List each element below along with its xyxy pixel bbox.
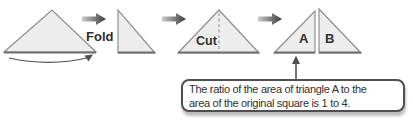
- right-block-arrow-icon: [82, 13, 106, 25]
- up-arrow-icon: [292, 56, 300, 80]
- right-block-arrow-icon: [162, 13, 186, 25]
- folded-triangle: [118, 10, 155, 53]
- right-block-arrow-icon: [258, 13, 282, 25]
- curved-fold-arrow-icon: [9, 55, 93, 63]
- callout-line-2: area of the original square is 1 to 4.: [189, 97, 403, 111]
- triangle-a: [274, 11, 315, 53]
- diagram-canvas: Fold Cut A B The ratio of the area of tr…: [0, 0, 413, 124]
- cut-label: Cut: [196, 34, 217, 48]
- callout-box: The ratio of the area of triangle A to t…: [181, 79, 405, 112]
- triangle-b-label: B: [325, 31, 334, 46]
- triangle-a-label: A: [299, 31, 308, 46]
- fold-label: Fold: [86, 29, 113, 44]
- callout-line-1: The ratio of the area of triangle A to t…: [189, 83, 403, 97]
- original-triangle: [4, 10, 96, 53]
- cut-triangle: [178, 10, 259, 53]
